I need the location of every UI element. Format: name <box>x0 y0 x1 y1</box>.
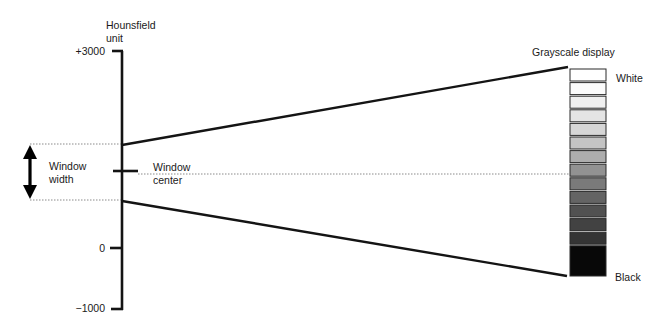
grayscale-title: Grayscale display <box>532 46 615 59</box>
grayscale-cell <box>570 219 606 231</box>
grayscale-cell <box>570 69 606 81</box>
upper-mapping-line <box>122 67 568 145</box>
grayscale-cell <box>570 232 606 244</box>
grayscale-cell <box>570 123 606 135</box>
grayscale-cell <box>570 164 606 176</box>
grayscale-cell <box>570 151 606 163</box>
tick-label-plus3000: +3000 <box>60 45 105 58</box>
grayscale-cell <box>570 96 606 108</box>
grayscale-cell <box>570 110 606 122</box>
grayscale-cell <box>570 246 606 276</box>
window-width-arrow-icon <box>23 145 37 199</box>
lower-mapping-line <box>122 201 567 276</box>
grayscale-cell <box>570 178 606 190</box>
grayscale-cell <box>570 205 606 217</box>
grayscale-bar <box>570 69 606 276</box>
window-center-label: Window center <box>153 161 190 187</box>
black-label: Black <box>615 271 641 284</box>
grayscale-cell <box>570 191 606 203</box>
window-width-label: Window width <box>49 160 86 186</box>
tick-label-zero: 0 <box>60 242 105 255</box>
grayscale-cell <box>570 83 606 95</box>
grayscale-cell <box>570 137 606 149</box>
axis-title: Hounsfield unit <box>106 19 156 45</box>
white-label: White <box>616 72 643 85</box>
tick-label-minus1000: −1000 <box>55 302 105 315</box>
